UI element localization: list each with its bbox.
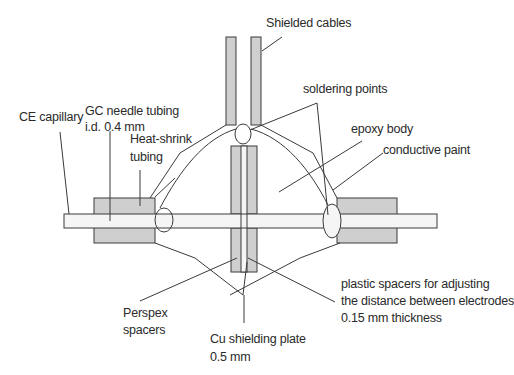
leader-epoxy bbox=[279, 141, 362, 192]
label-heat-shrink-2: tubing bbox=[130, 149, 163, 165]
label-heat-shrink-1: Heat-shrink bbox=[130, 131, 192, 147]
label-conductive-paint: conductive paint bbox=[383, 142, 470, 158]
shielded-cable-right bbox=[251, 37, 261, 125]
label-gc-needle-1: GC needle tubing bbox=[85, 103, 179, 119]
label-cu-plate-1: Cu shielding plate bbox=[210, 331, 306, 347]
label-soldering-points: soldering points bbox=[303, 81, 387, 97]
plastic-spacer-strip bbox=[241, 146, 247, 272]
label-perspex-2: spacers bbox=[123, 322, 165, 338]
soldering-point-right bbox=[323, 204, 341, 238]
soldering-point-top bbox=[235, 124, 251, 144]
leader-conductive-paint bbox=[333, 153, 383, 190]
label-shielded-cables: Shielded cables bbox=[266, 15, 351, 31]
label-plastic-spacers-2: the distance between electrodes bbox=[341, 293, 514, 309]
label-cu-plate-2: 0.5 mm bbox=[210, 349, 250, 365]
label-epoxy-body: epoxy body bbox=[351, 121, 413, 137]
leader-plastic-spacer-right bbox=[248, 258, 335, 302]
label-plastic-spacers-1: plastic spacers for adjusting bbox=[341, 276, 489, 292]
label-perspex-1: Perspex bbox=[123, 305, 167, 321]
leader-ce-capillary bbox=[60, 132, 69, 214]
capillary-through-plate bbox=[231, 214, 257, 228]
label-plastic-spacers-3: 0.15 mm thickness bbox=[341, 310, 442, 326]
leader-shielded-cables bbox=[262, 37, 282, 51]
shielded-cable-left bbox=[226, 37, 236, 125]
label-ce-capillary: CE capillary bbox=[19, 109, 83, 125]
